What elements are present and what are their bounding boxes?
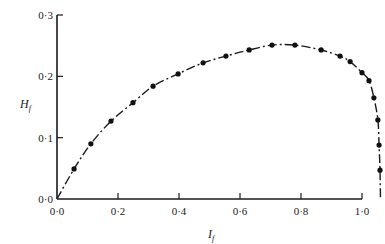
x-axis-label: If xyxy=(207,227,216,243)
data-point xyxy=(130,100,135,105)
data-point xyxy=(88,141,93,146)
data-point xyxy=(71,166,76,171)
data-point xyxy=(319,47,324,52)
y-tick-label: 0·0 xyxy=(38,193,53,205)
x-tick-label: 0·4 xyxy=(172,205,187,217)
x-tick-label: 0·6 xyxy=(233,205,248,217)
data-point xyxy=(150,84,155,89)
y-tick-label: 0·3 xyxy=(38,9,53,21)
data-point xyxy=(337,53,342,58)
data-point xyxy=(348,59,353,64)
y-axis-label: Hf xyxy=(19,97,33,113)
x-tick-label: 0·2 xyxy=(111,205,126,217)
chart: 0·00·10·20·30·00·20·40·60·81·0 Hf If xyxy=(0,0,385,244)
data-point xyxy=(292,42,297,47)
data-point xyxy=(375,117,380,122)
data-point xyxy=(269,42,274,47)
data-markers xyxy=(71,42,382,172)
data-point xyxy=(366,78,371,83)
data-point xyxy=(108,119,113,124)
data-point xyxy=(376,142,381,147)
y-tick-label: 0·2 xyxy=(38,70,53,82)
data-point xyxy=(359,70,364,75)
data-point xyxy=(377,168,382,173)
data-point xyxy=(175,71,180,76)
data-point xyxy=(371,95,376,100)
x-tick-label: 0·8 xyxy=(294,205,309,217)
data-point xyxy=(223,53,228,58)
ticks: 0·00·10·20·30·00·20·40·60·81·0 xyxy=(38,9,369,217)
y-tick-label: 0·1 xyxy=(38,132,53,144)
data-point xyxy=(247,47,252,52)
data-curve xyxy=(57,44,381,199)
axes xyxy=(57,15,362,199)
x-tick-label: 1·0 xyxy=(355,205,370,217)
data-point xyxy=(200,60,205,65)
x-tick-label: 0·0 xyxy=(50,205,65,217)
